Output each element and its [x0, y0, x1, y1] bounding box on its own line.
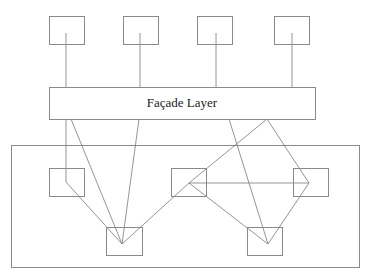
client-2-box — [124, 17, 159, 45]
bottom-left-to-center-to-facade-line — [122, 119, 267, 244]
client-1-box — [50, 17, 85, 45]
facade-to-bottom-left-b-line — [122, 119, 139, 244]
facade-layer-label: Façade Layer — [147, 95, 218, 110]
center-to-bottom-right-line — [189, 183, 268, 244]
client-3-box — [198, 17, 233, 45]
facade-pattern-diagram: Façade Layer — [0, 0, 368, 275]
subsystem-container — [12, 146, 360, 268]
facade-to-left-to-bottom-left-line — [66, 119, 122, 244]
client-boxes — [50, 17, 310, 45]
facade-to-bottom-right-line — [229, 119, 268, 244]
facade-to-right-to-bottom-right-line — [267, 119, 309, 244]
facade-to-bottom-left-a-line — [71, 119, 122, 244]
subsystem-right-box — [294, 169, 329, 197]
connector-lines — [66, 33, 309, 244]
subsystem-boxes — [50, 169, 329, 256]
subsystem-left-box — [50, 169, 85, 197]
